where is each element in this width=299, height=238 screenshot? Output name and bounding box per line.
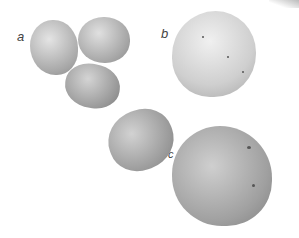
potato-eye: [247, 146, 251, 149]
corner-shadow: [269, 0, 299, 8]
potato-eye: [202, 36, 204, 38]
potato-a2: [78, 17, 130, 63]
potato-eye: [227, 56, 229, 58]
potato-a3: [62, 60, 123, 111]
label-a: a: [17, 29, 24, 44]
potato-a1: [30, 20, 78, 75]
potato-b: [172, 11, 256, 97]
potato-eye: [252, 184, 255, 187]
label-b: b: [161, 26, 168, 41]
potato-eye: [242, 71, 244, 73]
potato-c: [100, 101, 183, 180]
potato-large: [172, 126, 272, 226]
